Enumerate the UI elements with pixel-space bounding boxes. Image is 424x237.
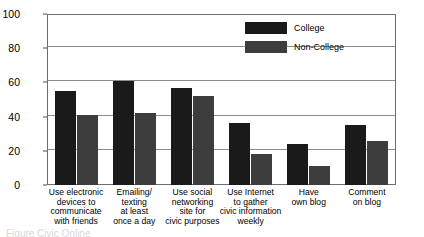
bar-non-college-5 (367, 141, 388, 185)
bar-non-college-1 (135, 113, 156, 185)
legend-label-noncollege: Non-College (294, 42, 344, 52)
bar-non-college-4 (309, 166, 330, 185)
y-tick-label-60: 60 (0, 77, 20, 88)
legend-label-college: College (294, 23, 325, 33)
y-tick-label-80: 80 (0, 43, 20, 54)
bar-non-college-0 (77, 115, 98, 185)
bar-college-5 (345, 125, 366, 185)
bar-chart-figure: 020406080100 Use electronic devices to c… (0, 0, 424, 237)
bar-college-4 (287, 144, 308, 185)
y-tick-label-40: 40 (0, 111, 20, 122)
figure-caption: Figure Civic Online (6, 228, 90, 237)
y-tick-label-20: 20 (0, 146, 20, 157)
x-category-label-5: Comment on blog (330, 188, 404, 207)
legend: College Non-College (245, 22, 344, 60)
y-tick-label-100: 100 (0, 9, 20, 20)
bar-college-1 (113, 81, 134, 185)
bar-college-2 (171, 88, 192, 185)
legend-swatch-noncollege-icon (245, 41, 287, 53)
bar-college-0 (55, 91, 76, 185)
legend-item-noncollege: Non-College (245, 41, 344, 53)
legend-swatch-college-icon (245, 22, 287, 34)
bar-college-3 (229, 123, 250, 185)
bar-non-college-3 (251, 154, 272, 185)
bar-non-college-2 (193, 96, 214, 185)
legend-item-college: College (245, 22, 344, 34)
y-tick-label-0: 0 (0, 180, 20, 191)
